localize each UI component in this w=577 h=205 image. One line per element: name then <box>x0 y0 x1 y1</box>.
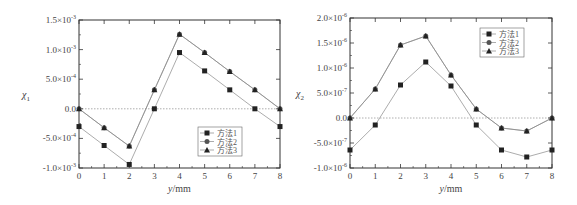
legend: 方法1方法2方法3 <box>198 127 242 156</box>
x-tick-label: 3 <box>152 171 157 181</box>
y-tick-label: 1.0×10-3 <box>46 44 76 55</box>
y-tick-label: 0.0 <box>65 104 77 114</box>
x-tick-label: 7 <box>525 171 530 181</box>
data-point-square-marker <box>152 106 157 111</box>
chart-chi2: -1.0×10-6-5.0×10-70.05.0×10-71.0×10-61.5… <box>295 12 555 194</box>
data-point-square-marker <box>278 124 283 129</box>
series-2 <box>77 32 283 149</box>
y-tick-label: 0.0 <box>336 113 348 123</box>
chart-chi1: -1.0×10-3-5.0×10-40.05.0×10-41.0×10-31.5… <box>21 14 283 194</box>
x-tick-label: 1 <box>373 171 378 181</box>
x-tick-label: 5 <box>474 171 479 181</box>
x-tick-label: 4 <box>449 171 454 181</box>
data-point-square-marker <box>127 162 132 167</box>
x-tick-label: 4 <box>177 171 182 181</box>
y-axis-label: χ2 <box>295 88 304 102</box>
data-point-square-marker <box>227 87 232 92</box>
x-tick-label: 1 <box>102 171 107 181</box>
data-point-square-marker <box>499 148 504 153</box>
legend-label: 方法2 <box>499 38 519 48</box>
legend-label: 方法3 <box>217 145 237 155</box>
legend: 方法1方法2方法3 <box>480 28 524 57</box>
data-point-square-marker <box>102 143 107 148</box>
x-tick-label: 2 <box>127 171 132 181</box>
legend-label: 方法2 <box>217 137 237 147</box>
x-tick-label: 6 <box>228 171 233 181</box>
y-tick-label: -5.0×10-4 <box>43 132 76 143</box>
x-tick-label: 0 <box>348 171 353 181</box>
data-point-square-marker <box>373 123 378 128</box>
data-point-square-marker <box>474 123 479 128</box>
data-point-square-marker <box>550 148 555 153</box>
legend-square-marker <box>205 131 210 136</box>
series-3 <box>76 31 283 148</box>
x-tick-label: 5 <box>202 171 207 181</box>
data-point-square-marker <box>177 50 182 55</box>
y-tick-label: -1.0×10-6 <box>314 162 347 173</box>
legend-label: 方法3 <box>499 46 519 56</box>
data-point-square-marker <box>348 148 353 153</box>
x-tick-label: 3 <box>424 171 429 181</box>
x-tick-label: 0 <box>77 171 82 181</box>
y-tick-label: -1.0×10-3 <box>43 162 76 173</box>
legend-label: 方法1 <box>217 128 237 138</box>
y-tick-label: 5.0×10-4 <box>46 73 76 84</box>
legend-square-marker <box>487 32 492 37</box>
x-tick-label: 2 <box>398 171 403 181</box>
plot-frame <box>79 20 280 168</box>
figure: -1.0×10-3-5.0×10-40.05.0×10-41.0×10-31.5… <box>0 0 577 205</box>
y-tick-label: 2.0×10-6 <box>317 12 347 23</box>
legend-circle-marker <box>487 40 492 45</box>
legend-label: 方法1 <box>499 29 519 39</box>
data-point-square-marker <box>252 106 257 111</box>
data-point-square-marker <box>423 60 428 65</box>
data-point-square-marker <box>398 83 403 88</box>
x-tick-label: 7 <box>253 171 258 181</box>
y-tick-label: 1.0×10-6 <box>317 62 347 73</box>
data-point-square-marker <box>202 68 207 73</box>
data-point-square-marker <box>449 84 454 89</box>
x-axis-label: y/mm <box>439 183 463 194</box>
x-tick-label: 8 <box>278 171 283 181</box>
x-tick-label: 6 <box>499 171 504 181</box>
y-axis-label: χ1 <box>21 89 30 103</box>
y-tick-label: -5.0×10-7 <box>314 137 347 148</box>
y-tick-label: 1.5×10-3 <box>46 14 76 25</box>
y-tick-label: 5.0×10-7 <box>317 87 347 98</box>
y-tick-label: 1.5×10-6 <box>317 37 347 48</box>
data-point-square-marker <box>77 124 82 129</box>
data-point-square-marker <box>524 155 529 160</box>
legend-circle-marker <box>205 139 210 144</box>
x-axis-label: y/mm <box>167 183 191 194</box>
x-tick-label: 8 <box>550 171 555 181</box>
